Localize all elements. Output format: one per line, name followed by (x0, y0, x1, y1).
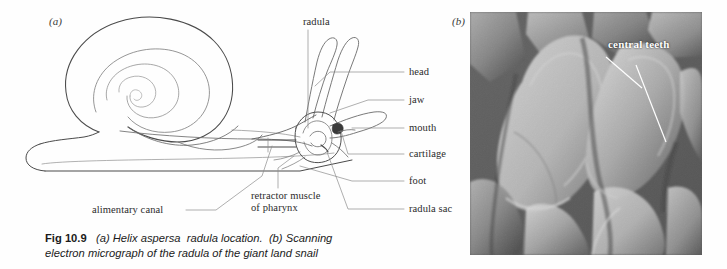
caption-line-2: electron micrograph of the radula of the… (45, 247, 318, 259)
label-jaw: jaw (409, 94, 424, 105)
micrograph-label-central-teeth: central teeth (608, 38, 670, 50)
figure-caption: Fig 10.9 (a) Helix aspersa radula locati… (45, 231, 465, 261)
label-retractor-muscle-of-pharynx: retractor muscle of pharynx (251, 190, 331, 213)
label-alimentary-canal: alimentary canal (92, 204, 163, 215)
label-mouth: mouth (409, 122, 436, 133)
snail-anatomy-diagram (0, 0, 470, 232)
label-cartilage: cartilage (409, 148, 446, 159)
figure-10-9: (a) radula head jaw mouth cartilage foot… (0, 0, 727, 269)
label-foot: foot (409, 175, 426, 186)
caption-fig-number: Fig 10.9 (45, 232, 87, 244)
label-radula-sac: radula sac (409, 203, 452, 214)
panel-b-letter: (b) (452, 15, 465, 27)
caption-part-b: (b) Scanning (269, 232, 332, 244)
panel-a-letter: (a) (49, 15, 62, 27)
caption-part-a: (a) Helix aspersa (96, 232, 181, 244)
label-head: head (409, 66, 429, 77)
label-radula: radula (303, 16, 330, 27)
caption-part-a-italic: radula location. (187, 232, 263, 244)
